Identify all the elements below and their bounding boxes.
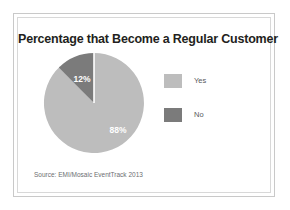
pie-label-no: 12% bbox=[73, 74, 90, 84]
plot-area: 88% 12% Yes No bbox=[18, 48, 272, 158]
legend-swatch-no bbox=[164, 108, 182, 122]
chart-card-inner-frame: Percentage that Become a Regular Custome… bbox=[17, 17, 271, 193]
legend-item-no[interactable]: No bbox=[164, 108, 264, 122]
pie-svg: 88% 12% bbox=[42, 51, 146, 155]
page-title: Percentage that Become a Regular Custome… bbox=[18, 32, 270, 46]
pie-chart: 88% 12% bbox=[42, 51, 146, 155]
chart-card-frame: Percentage that Become a Regular Custome… bbox=[13, 13, 275, 197]
legend-label-no: No bbox=[194, 111, 204, 119]
chart-figure: Percentage that Become a Regular Custome… bbox=[0, 0, 290, 210]
legend-item-yes[interactable]: Yes bbox=[164, 74, 264, 88]
chart-card-body: Percentage that Become a Regular Custome… bbox=[18, 18, 270, 192]
pie-label-yes: 88% bbox=[109, 125, 126, 135]
source-note: Source: EMI/Mosaic EventTrack 2013 bbox=[34, 171, 143, 178]
chart-legend: Yes No bbox=[164, 74, 264, 142]
legend-swatch-yes bbox=[164, 74, 182, 88]
legend-label-yes: Yes bbox=[194, 77, 206, 85]
